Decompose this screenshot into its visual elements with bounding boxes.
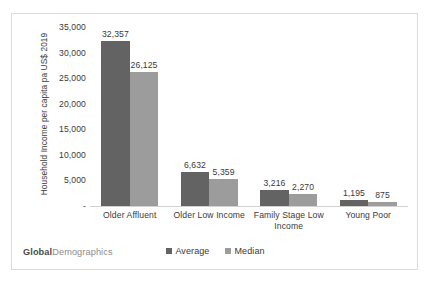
bar-pair: 32,35726,125 — [101, 27, 158, 206]
y-axis-tick: 5,000 — [64, 175, 86, 185]
bar-pair: 3,2162,270 — [260, 27, 317, 206]
legend-label: Average — [175, 246, 209, 256]
y-axis-tick-labels: 35,00030,00025,00020,00015,00010,0005,00… — [34, 27, 86, 206]
bar-value-label: 875 — [375, 190, 390, 200]
bar-group: 32,35726,125 — [90, 27, 170, 206]
legend-label: Median — [234, 246, 264, 256]
x-axis-label: Young Poor — [329, 210, 409, 232]
bar-median[interactable] — [130, 72, 159, 206]
y-axis-tick: 35,000 — [59, 22, 86, 32]
bar-average[interactable] — [181, 172, 210, 206]
y-axis-tick: 10,000 — [59, 150, 86, 160]
bar-value-label: 3,216 — [263, 178, 285, 188]
bar-groups: 32,35726,1256,6325,3593,2162,2701,195875 — [90, 27, 408, 206]
bar-column: 875 — [368, 27, 397, 206]
y-axis-tick: 20,000 — [59, 99, 86, 109]
bar-group: 6,6325,359 — [170, 27, 250, 206]
bar-average[interactable] — [101, 41, 130, 206]
x-axis-label: Older Affluent — [90, 210, 170, 232]
bar-median[interactable] — [209, 179, 238, 206]
legend-swatch-icon — [166, 248, 172, 254]
brand-watermark: GlobalDemographics — [23, 247, 113, 257]
bar-value-label: 1,195 — [343, 188, 365, 198]
bar-column: 1,195 — [340, 27, 369, 206]
y-axis-tick: 30,000 — [59, 48, 86, 58]
bar-value-label: 2,270 — [292, 182, 314, 192]
bar-pair: 1,195875 — [340, 27, 397, 206]
bar-column: 2,270 — [289, 27, 318, 206]
bar-column: 26,125 — [130, 27, 159, 206]
x-axis-label: Older Low Income — [170, 210, 250, 232]
bar-group: 1,195875 — [329, 27, 409, 206]
brand-global: Global — [23, 247, 52, 257]
x-axis-label: Family Stage Low Income — [249, 210, 329, 232]
x-axis-category-labels: Older AffluentOlder Low IncomeFamily Sta… — [90, 210, 408, 232]
category-axis-line — [90, 206, 408, 207]
bar-median[interactable] — [289, 194, 318, 206]
y-axis-tick: 15,000 — [59, 124, 86, 134]
bar-pair: 6,6325,359 — [181, 27, 238, 206]
bar-column: 6,632 — [181, 27, 210, 206]
bar-column: 32,357 — [101, 27, 130, 206]
y-axis-tick: - — [83, 201, 86, 211]
bar-value-label: 32,357 — [102, 29, 129, 39]
bar-value-label: 26,125 — [131, 60, 158, 70]
bar-group: 3,2162,270 — [249, 27, 329, 206]
bar-average[interactable] — [260, 190, 289, 206]
bar-median[interactable] — [368, 202, 397, 206]
bar-column: 3,216 — [260, 27, 289, 206]
chart-frame: Household Income per capita pa US$ 2019 … — [11, 13, 418, 270]
brand-demographics: Demographics — [52, 247, 112, 257]
bar-value-label: 6,632 — [184, 160, 206, 170]
legend-swatch-icon — [225, 248, 231, 254]
bar-value-label: 5,359 — [213, 167, 235, 177]
legend-item-median[interactable]: Median — [225, 246, 264, 256]
bar-average[interactable] — [340, 200, 369, 206]
legend-item-average[interactable]: Average — [166, 246, 209, 256]
y-axis-tick: 25,000 — [59, 73, 86, 83]
bar-column: 5,359 — [209, 27, 238, 206]
